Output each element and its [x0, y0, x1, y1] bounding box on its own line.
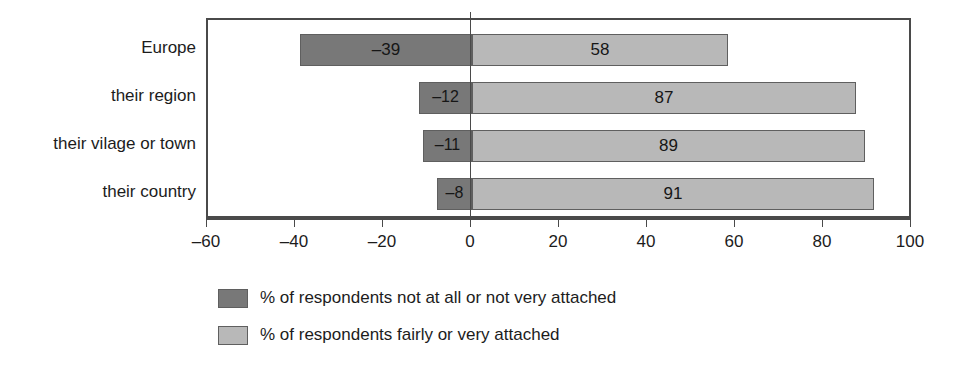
- bar-negative-their-vilage-or-town: –11: [423, 130, 472, 162]
- legend-item-negative: % of respondents not at all or not very …: [218, 288, 616, 308]
- category-label-their-country: their country: [0, 182, 196, 202]
- x-tick-label: 20: [523, 232, 593, 252]
- category-label-their-region: their region: [0, 86, 196, 106]
- x-tick-mark: [558, 218, 559, 227]
- x-tick-label: 0: [435, 232, 505, 252]
- bar-positive-their-vilage-or-town: 89: [472, 130, 865, 162]
- x-tick-mark: [470, 218, 471, 227]
- zero-reference-line: [470, 12, 471, 224]
- plot-area: –39 58 –12 87 –11 89 –8 91: [206, 18, 911, 218]
- category-label-their-vilage-or-town: their vilage or town: [0, 134, 196, 154]
- x-tick-mark: [910, 218, 911, 227]
- x-tick-mark: [734, 218, 735, 227]
- bar-positive-their-region: 87: [472, 82, 856, 114]
- legend-item-positive: % of respondents fairly or very attached: [218, 325, 560, 345]
- x-tick-mark: [646, 218, 647, 227]
- bar-negative-their-country: –8: [437, 178, 472, 210]
- bar-value-positive-europe: 58: [591, 41, 610, 58]
- legend-label-negative: % of respondents not at all or not very …: [260, 288, 616, 308]
- bar-value-negative-europe: –39: [372, 41, 400, 58]
- bar-positive-their-country: 91: [472, 178, 874, 210]
- legend-label-positive: % of respondents fairly or very attached: [260, 325, 560, 345]
- x-tick-mark: [206, 218, 207, 227]
- bar-negative-their-region: –12: [419, 82, 472, 114]
- x-tick-label: 80: [787, 232, 857, 252]
- x-tick-label: 60: [699, 232, 769, 252]
- x-tick-label: –40: [259, 232, 329, 252]
- legend-swatch-icon-negative: [218, 289, 248, 308]
- bar-negative-europe: –39: [300, 34, 472, 66]
- x-tick-mark: [822, 218, 823, 227]
- x-tick-mark: [294, 218, 295, 227]
- bar-value-negative-their-vilage-or-town: –11: [435, 137, 461, 153]
- x-tick-label: –20: [347, 232, 417, 252]
- x-tick-label: 100: [875, 232, 945, 252]
- x-tick-label: 40: [611, 232, 681, 252]
- bar-value-positive-their-country: 91: [664, 185, 683, 202]
- x-tick-label: –60: [171, 232, 241, 252]
- x-tick-mark: [382, 218, 383, 227]
- bar-value-negative-their-country: –8: [446, 185, 464, 201]
- category-label-europe: Europe: [0, 38, 196, 58]
- bar-value-negative-their-region: –12: [432, 89, 459, 105]
- bar-value-positive-their-region: 87: [655, 89, 674, 106]
- diverging-bar-chart: Europe their region their vilage or town…: [0, 0, 959, 376]
- bar-value-positive-their-vilage-or-town: 89: [659, 137, 678, 154]
- bar-positive-europe: 58: [472, 34, 728, 66]
- legend-swatch-icon-positive: [218, 326, 248, 345]
